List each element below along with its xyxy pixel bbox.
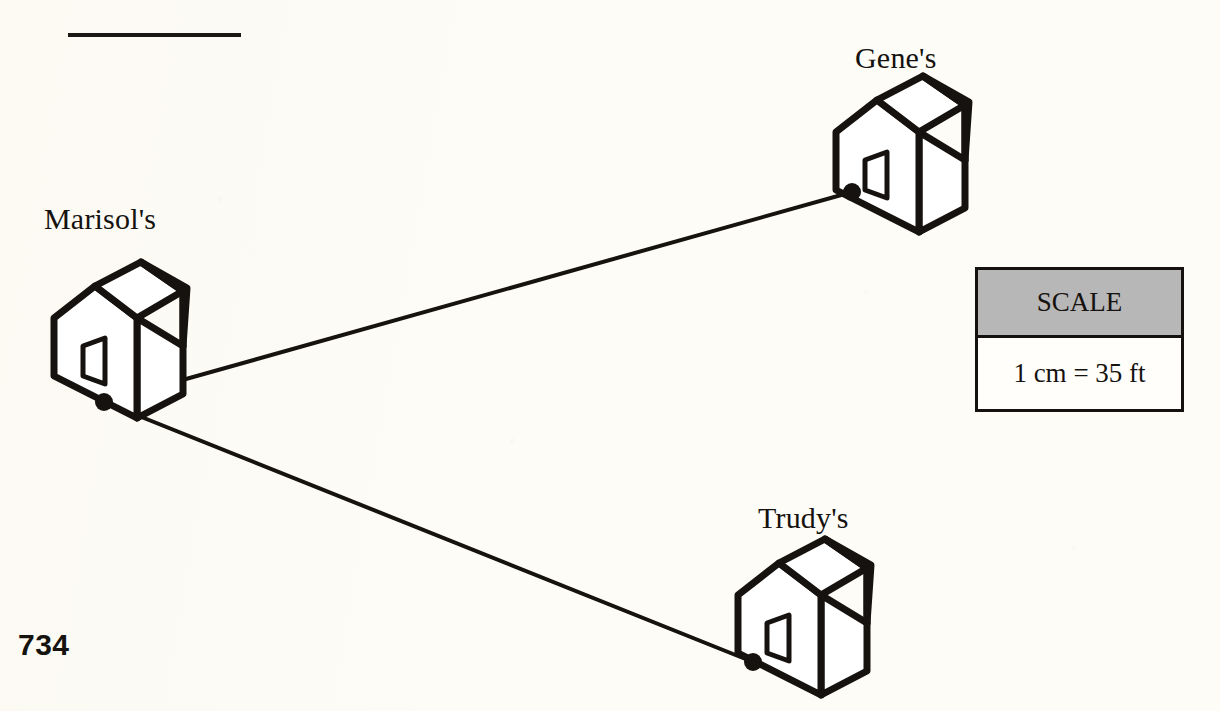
scale-legend-box: SCALE 1 cm = 35 ft (975, 267, 1184, 412)
house-label-trudy: Trudy's (758, 501, 849, 535)
page-number: 734 (18, 628, 70, 662)
house-label-marisol: Marisol's (44, 202, 156, 236)
scale-legend-value: 1 cm = 35 ft (978, 338, 1181, 409)
node-gene (843, 183, 861, 201)
house-trudy (738, 539, 871, 695)
segment-marisol-to-trudy (104, 402, 753, 662)
textbook-page: Marisol's Gene's Trudy's SCALE 1 cm = 35… (0, 0, 1220, 711)
segment-marisol-to-gene (104, 192, 852, 402)
node-marisol (95, 393, 113, 411)
house-gene (836, 76, 969, 232)
scale-legend-title: SCALE (978, 270, 1181, 338)
node-trudy (744, 653, 762, 671)
house-label-gene: Gene's (855, 41, 937, 75)
house-marisol (54, 262, 187, 418)
